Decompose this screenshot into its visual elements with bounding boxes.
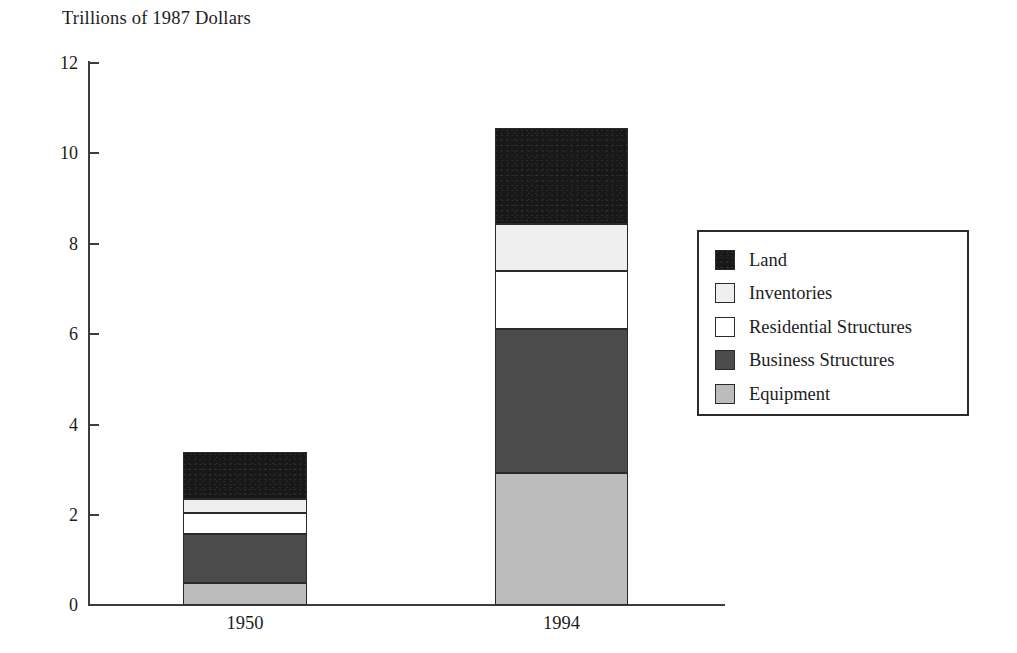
bar-1994[interactable] xyxy=(495,62,628,605)
bar-segment-1994-equipment[interactable] xyxy=(495,473,628,605)
legend-item-inventories[interactable]: Inventories xyxy=(699,277,967,311)
legend-item-land[interactable]: Land xyxy=(699,243,967,277)
y-tick-8 xyxy=(90,243,99,245)
stacked-bar-chart: Trillions of 1987 Dollars 12 10 8 6 4 2 … xyxy=(0,0,1017,653)
bar-segment-1950-equipment[interactable] xyxy=(183,583,307,605)
chart-legend: Land Inventories Residential Structures … xyxy=(697,230,969,416)
business-structures-swatch-icon xyxy=(715,350,735,370)
y-tick-label-8: 8 xyxy=(0,235,78,253)
inventories-swatch-icon xyxy=(715,283,735,303)
land-swatch-icon xyxy=(715,250,735,270)
y-tick-label-10: 10 xyxy=(0,144,78,162)
bar-segment-1994-land[interactable] xyxy=(495,128,628,224)
y-tick-2 xyxy=(90,514,99,516)
bar-segment-1994-inventories[interactable] xyxy=(495,224,628,271)
y-tick-4 xyxy=(90,424,99,426)
legend-label-equipment: Equipment xyxy=(749,385,830,404)
bar-segment-1994-residential-structures[interactable] xyxy=(495,271,628,329)
legend-label-residential-structures: Residential Structures xyxy=(749,318,912,337)
bar-segment-1950-land[interactable] xyxy=(183,452,307,499)
residential-structures-swatch-icon xyxy=(715,317,735,337)
legend-label-land: Land xyxy=(749,251,787,270)
legend-label-inventories: Inventories xyxy=(749,284,832,303)
y-tick-label-2: 2 xyxy=(0,506,78,524)
bar-segment-1950-inventories[interactable] xyxy=(183,499,307,513)
bar-segment-1950-residential-structures[interactable] xyxy=(183,513,307,534)
y-tick-label-12: 12 xyxy=(0,54,78,72)
chart-title: Trillions of 1987 Dollars xyxy=(62,8,251,29)
legend-item-business-structures[interactable]: Business Structures xyxy=(699,344,967,378)
x-tick-label-1950: 1950 xyxy=(183,614,307,633)
y-tick-0 xyxy=(90,604,99,606)
y-tick-10 xyxy=(90,152,99,154)
equipment-swatch-icon xyxy=(715,384,735,404)
y-tick-label-4: 4 xyxy=(0,416,78,434)
y-tick-label-0: 0 xyxy=(0,596,78,614)
legend-item-equipment[interactable]: Equipment xyxy=(699,377,967,411)
y-tick-6 xyxy=(90,333,99,335)
y-tick-label-6: 6 xyxy=(0,325,78,343)
x-tick-label-1994: 1994 xyxy=(495,614,628,633)
y-tick-12 xyxy=(90,62,99,64)
legend-item-residential-structures[interactable]: Residential Structures xyxy=(699,310,967,344)
bar-1950[interactable] xyxy=(183,62,307,605)
bar-segment-1950-business-structures[interactable] xyxy=(183,534,307,583)
bar-segment-1994-business-structures[interactable] xyxy=(495,329,628,473)
legend-label-business-structures: Business Structures xyxy=(749,351,894,370)
